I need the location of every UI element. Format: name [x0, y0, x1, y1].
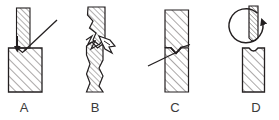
panel-b-lower-column — [87, 42, 104, 92]
caption-label-c: C — [165, 101, 185, 114]
panel-a-base-block — [9, 48, 43, 92]
caption-label-d: D — [246, 101, 266, 114]
diagram-svg — [0, 0, 279, 120]
panel-b-fracture — [86, 7, 115, 92]
panel-c-bar-lower — [165, 48, 189, 92]
figure-container: A B C D — [0, 0, 279, 120]
panel-d-drill-bit — [249, 6, 258, 41]
caption-label-a: A — [14, 101, 34, 114]
panel-a-punch-bar — [17, 8, 31, 48]
panel-a-punching — [9, 8, 58, 92]
panel-c-cutting — [148, 10, 190, 92]
panel-d-workpiece-block — [243, 48, 265, 92]
panel-d-drilling — [229, 6, 265, 92]
caption-label-b: B — [85, 101, 105, 114]
